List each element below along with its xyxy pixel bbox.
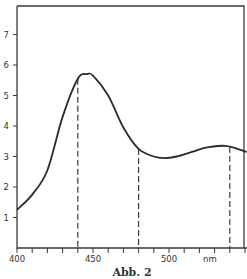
y-axis: 1234567 (4, 30, 17, 223)
x-tick-label: 500 (161, 254, 177, 264)
y-tick-label: 6 (4, 60, 9, 70)
x-unit-label: nm (203, 254, 217, 264)
spectrum-chart: 1234567 400450500 nm Abb. 2 (0, 0, 247, 279)
y-tick-label: 1 (4, 213, 9, 223)
x-tick-label: 450 (85, 254, 101, 264)
y-tick-label: 7 (4, 30, 9, 40)
x-tick-label: 400 (9, 254, 25, 264)
y-tick-label: 4 (4, 121, 9, 131)
dashed-markers (78, 79, 230, 248)
plot-frame (17, 6, 247, 248)
y-tick-label: 2 (4, 182, 9, 192)
y-tick-label: 5 (4, 91, 9, 101)
y-tick-label: 3 (4, 152, 9, 162)
figure-caption: Abb. 2 (111, 266, 151, 279)
absorption-curve (17, 73, 247, 209)
